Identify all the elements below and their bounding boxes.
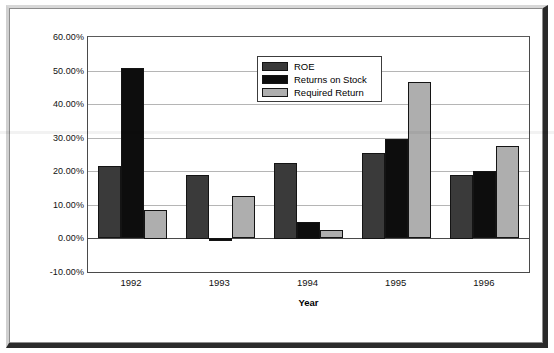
legend-item-roe: ROE: [262, 60, 377, 73]
bar-required-return-1993: [232, 196, 255, 238]
x-axis-title: Year: [87, 297, 530, 308]
bar-roe-1994: [274, 163, 297, 239]
bar-required-return-1992: [144, 210, 167, 239]
y-axis-tick-label: 0.00%: [12, 233, 84, 243]
legend-label-roe: ROE: [294, 61, 315, 72]
y-axis-tick-label: -10.00%: [12, 267, 84, 277]
gridline: [88, 171, 529, 172]
legend-item-returns-on-stock: Returns on Stock: [262, 73, 377, 86]
legend-swatch-required-return: [262, 88, 288, 97]
x-axis-tick-labels: 19921993199419951996: [87, 277, 530, 291]
bar-roe-1996: [450, 175, 473, 239]
y-axis-tick-label: 40.00%: [12, 99, 84, 109]
bar-returns-on-stock-1994: [297, 222, 320, 239]
legend-label-required-return: Required Return: [294, 87, 364, 98]
bar-returns-on-stock-1996: [473, 171, 496, 238]
chart-canvas: 60.00%50.00%40.00%30.00%20.00%10.00%0.00…: [9, 8, 543, 343]
y-axis-tick-label: 10.00%: [12, 200, 84, 210]
legend-swatch-returns-on-stock: [262, 75, 288, 84]
x-axis-tick-label: 1995: [385, 277, 406, 288]
gridline: [88, 138, 529, 139]
y-axis-tick-label: 60.00%: [12, 32, 84, 42]
y-axis-tick-label: 20.00%: [12, 166, 84, 176]
chart-legend: ROE Returns on Stock Required Return: [257, 56, 382, 102]
bar-roe-1993: [186, 175, 209, 239]
x-axis-tick-label: 1994: [297, 277, 318, 288]
y-axis-tick-label: 30.00%: [12, 133, 84, 143]
x-axis-tick-label: 1993: [209, 277, 230, 288]
bar-returns-on-stock-1992: [121, 68, 144, 238]
bar-returns-on-stock-1993: [209, 238, 232, 241]
x-axis-tick-label: 1996: [473, 277, 494, 288]
bar-returns-on-stock-1995: [385, 139, 408, 238]
legend-swatch-roe: [262, 62, 288, 71]
x-axis-tick-label: 1992: [121, 277, 142, 288]
legend-label-returns-on-stock: Returns on Stock: [294, 74, 367, 85]
bar-required-return-1995: [408, 82, 431, 238]
chart-frame: 60.00%50.00%40.00%30.00%20.00%10.00%0.00…: [6, 5, 548, 348]
gridline: [88, 104, 529, 105]
bar-roe-1995: [362, 153, 385, 239]
bar-required-return-1994: [320, 230, 343, 238]
bar-roe-1992: [98, 166, 121, 238]
y-axis-tick-labels: 60.00%50.00%40.00%30.00%20.00%10.00%0.00…: [10, 36, 84, 272]
y-axis-tick-label: 50.00%: [12, 66, 84, 76]
bar-required-return-1996: [496, 146, 519, 238]
legend-item-required-return: Required Return: [262, 86, 377, 99]
